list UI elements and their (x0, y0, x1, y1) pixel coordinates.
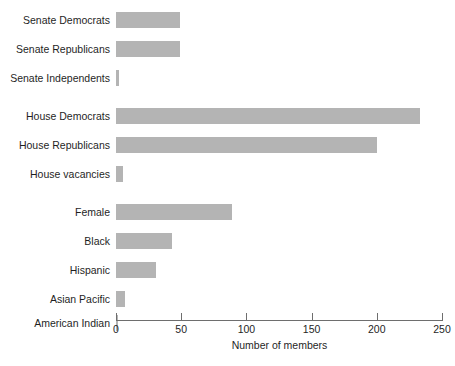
bar (116, 166, 123, 182)
x-axis-tick (181, 313, 182, 321)
category-label: Hispanic (70, 262, 110, 278)
category-label: House Republicans (19, 137, 110, 153)
bar-row (116, 204, 442, 220)
plot-area (116, 8, 442, 320)
bar (116, 12, 180, 28)
x-axis-tick (377, 313, 378, 321)
x-axis-line (116, 320, 443, 321)
x-axis-tick (246, 313, 247, 321)
bar (116, 291, 125, 307)
x-axis-tick-label: 0 (113, 323, 119, 336)
bar-row (116, 70, 442, 86)
x-axis-tick-label: 100 (238, 323, 256, 336)
bar-row (116, 262, 442, 278)
category-label: Senate Republicans (16, 41, 110, 57)
bar (116, 70, 119, 86)
bar-row (116, 166, 442, 182)
bar-row (116, 233, 442, 249)
category-label: House vacancies (30, 166, 110, 182)
x-axis-tick-label: 250 (433, 323, 451, 336)
x-axis-tick-label: 150 (303, 323, 321, 336)
category-label: House Democrats (26, 108, 110, 124)
x-axis-tick-label: 200 (368, 323, 386, 336)
category-label: Senate Democrats (23, 12, 110, 28)
bar-chart-figure: Senate DemocratsSenate RepublicansSenate… (0, 0, 455, 366)
bar (116, 204, 232, 220)
x-axis-tick (442, 313, 443, 321)
category-label: Asian Pacific (50, 291, 110, 307)
bar-row (116, 137, 442, 153)
x-axis-tick (116, 313, 117, 321)
bar (116, 233, 172, 249)
category-label: American Indian (34, 315, 110, 331)
x-axis-tick-label: 50 (175, 323, 187, 336)
bar (116, 108, 420, 124)
bar-row (116, 12, 442, 28)
category-label-layer: Senate DemocratsSenate RepublicansSenate… (0, 8, 110, 320)
x-axis-title: Number of members (116, 339, 443, 351)
bar-row (116, 291, 442, 307)
category-label: Black (84, 233, 110, 249)
bar-row (116, 41, 442, 57)
bar-row (116, 315, 442, 331)
category-label: Female (75, 204, 110, 220)
x-axis-tick (312, 313, 313, 321)
bar (116, 262, 156, 278)
bar (116, 41, 180, 57)
category-label: Senate Independents (10, 70, 110, 86)
bar (116, 137, 377, 153)
bar-row (116, 108, 442, 124)
